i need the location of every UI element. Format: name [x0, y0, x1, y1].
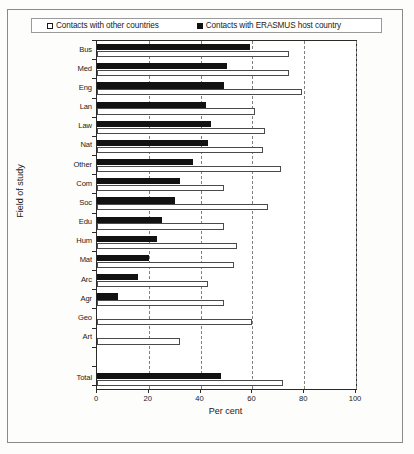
- bar-row: [97, 290, 356, 309]
- y-tick-label-art: Art: [32, 332, 92, 341]
- solid-square-icon: [197, 23, 203, 29]
- y-tick-mark: [92, 328, 96, 329]
- bar-row: [97, 156, 356, 175]
- bar-other-countries-total: [97, 380, 283, 386]
- bar-other-countries-arc: [97, 281, 208, 287]
- bar-host-country-bus: [97, 44, 250, 50]
- y-tick-mark: [92, 98, 96, 99]
- y-tick-label-hum: Hum: [32, 236, 92, 245]
- y-tick-label-med: Med: [32, 64, 92, 73]
- y-tick-mark: [92, 232, 96, 233]
- bar-other-countries-geo: [97, 319, 252, 325]
- y-tick-mark: [92, 366, 96, 367]
- bar-host-country-lan: [97, 102, 206, 108]
- y-tick-mark: [92, 136, 96, 137]
- legend-entry-host-country: Contacts with ERASMUS host country: [197, 21, 341, 30]
- y-tick-label-agr: Agr: [32, 294, 92, 303]
- x-tick-mark-100: [355, 389, 356, 393]
- y-tick-mark: [92, 117, 96, 118]
- bar-row: [97, 137, 356, 156]
- y-axis-tick-labels: BusMedEngLanLawNatOtherComSocEduHumMatAr…: [30, 40, 92, 388]
- bar-rows: [97, 41, 356, 389]
- bar-row: [97, 252, 356, 271]
- bar-row: [97, 118, 356, 137]
- bar-host-country-mat: [97, 255, 149, 261]
- legend-label-other-countries: Contacts with other countries: [56, 21, 159, 30]
- bar-other-countries-soc: [97, 204, 268, 210]
- bar-row: [97, 175, 356, 194]
- legend-label-host-country: Contacts with ERASMUS host country: [206, 21, 341, 30]
- y-tick-mark: [92, 174, 96, 175]
- x-tick-label-100: 100: [349, 394, 362, 403]
- hollow-square-icon: [47, 23, 53, 29]
- y-tick-mark: [92, 193, 96, 194]
- y-tick-label-edu: Edu: [32, 217, 92, 226]
- bar-other-countries-edu: [97, 223, 224, 229]
- y-tick-label-geo: Geo: [32, 313, 92, 322]
- bar-row: [97, 41, 356, 60]
- bar-host-country-nat: [97, 140, 208, 146]
- y-tick-mark: [92, 155, 96, 156]
- y-tick-label-soc: Soc: [32, 198, 92, 207]
- x-axis-ticks: 020406080100: [96, 389, 355, 405]
- bar-host-country-other: [97, 159, 193, 165]
- y-tick-label-bus: Bus: [32, 45, 92, 54]
- gridline-100: [356, 41, 357, 389]
- y-tick-mark: [92, 347, 96, 348]
- bar-host-country-total: [97, 373, 221, 379]
- bar-other-countries-nat: [97, 147, 263, 153]
- bar-other-countries-lan: [97, 108, 255, 114]
- y-tick-label-mat: Mat: [32, 255, 92, 264]
- bar-host-country-arc: [97, 274, 138, 280]
- y-tick-mark: [92, 40, 96, 41]
- bar-other-countries-art: [97, 338, 180, 344]
- bar-row: [97, 60, 356, 79]
- bar-host-country-soc: [97, 197, 175, 203]
- bar-row: [97, 370, 356, 389]
- y-tick-mark: [92, 213, 96, 214]
- chart-figure: Contacts with other countries Contacts w…: [0, 0, 414, 454]
- bar-host-country-agr: [97, 293, 118, 299]
- y-tick-mark: [92, 59, 96, 60]
- x-tick-label-40: 40: [195, 394, 203, 403]
- bar-row: [97, 329, 356, 348]
- bar-other-countries-agr: [97, 300, 224, 306]
- y-tick-mark: [92, 78, 96, 79]
- y-tick-mark: [92, 270, 96, 271]
- y-tick-label-law: Law: [32, 121, 92, 130]
- plot-area: [96, 40, 357, 390]
- bar-other-countries-other: [97, 166, 281, 172]
- bar-host-country-hum: [97, 236, 157, 242]
- bar-other-countries-hum: [97, 243, 237, 249]
- bar-row: [97, 99, 356, 118]
- y-tick-label-lan: Lan: [32, 102, 92, 111]
- y-tick-label-com: Com: [32, 179, 92, 188]
- y-tick-label-eng: Eng: [32, 83, 92, 92]
- y-tick-mark: [92, 251, 96, 252]
- y-tick-label-total: Total: [32, 373, 92, 382]
- x-tick-label-0: 0: [94, 394, 98, 403]
- bar-host-country-law: [97, 121, 211, 127]
- bar-row: [97, 271, 356, 290]
- y-tick-mark: [92, 289, 96, 290]
- bar-row: [97, 214, 356, 233]
- bar-other-countries-bus: [97, 51, 289, 57]
- bar-host-country-com: [97, 178, 180, 184]
- y-tick-label-other: Other: [32, 160, 92, 169]
- y-tick-label-nat: Nat: [32, 140, 92, 149]
- bar-other-countries-mat: [97, 262, 234, 268]
- bar-other-countries-eng: [97, 89, 302, 95]
- bar-row: [97, 79, 356, 98]
- x-tick-mark-0: [96, 389, 97, 393]
- x-tick-mark-60: [251, 389, 252, 393]
- y-axis-title: Field of study: [15, 136, 25, 246]
- x-tick-label-60: 60: [247, 394, 255, 403]
- x-tick-mark-40: [200, 389, 201, 393]
- x-tick-label-80: 80: [299, 394, 307, 403]
- bar-row: [97, 309, 356, 328]
- x-tick-label-20: 20: [144, 394, 152, 403]
- bar-row: [97, 233, 356, 252]
- x-axis-title: Per cent: [96, 406, 355, 416]
- bar-host-country-edu: [97, 217, 162, 223]
- x-tick-mark-20: [148, 389, 149, 393]
